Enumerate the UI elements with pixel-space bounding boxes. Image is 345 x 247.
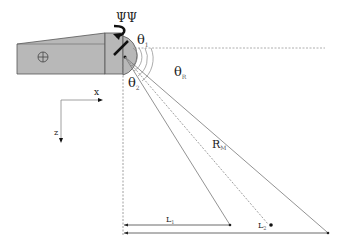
psi-label: ΨΨ xyxy=(116,11,138,25)
thetaR-label: θR xyxy=(174,64,187,80)
crosshair-icon xyxy=(38,52,48,62)
dimension-L1 xyxy=(124,224,231,227)
axis-x-label: x xyxy=(94,87,99,97)
dimension-total xyxy=(124,232,329,235)
beam-ray-center xyxy=(125,57,268,224)
L2-label: L2 xyxy=(258,221,267,231)
axis-z-label: z xyxy=(54,128,58,137)
housing-body xyxy=(17,33,105,74)
coordinate-axes xyxy=(59,98,103,143)
L1-label: L1 xyxy=(166,215,175,225)
range-label: RM xyxy=(212,138,226,151)
theta1-label: θ1 xyxy=(137,32,149,48)
sonar-geometry-diagram: ΨΨ θ1 θ2 θR RM x z L1 L2 xyxy=(0,0,345,247)
L2-point xyxy=(269,223,273,227)
